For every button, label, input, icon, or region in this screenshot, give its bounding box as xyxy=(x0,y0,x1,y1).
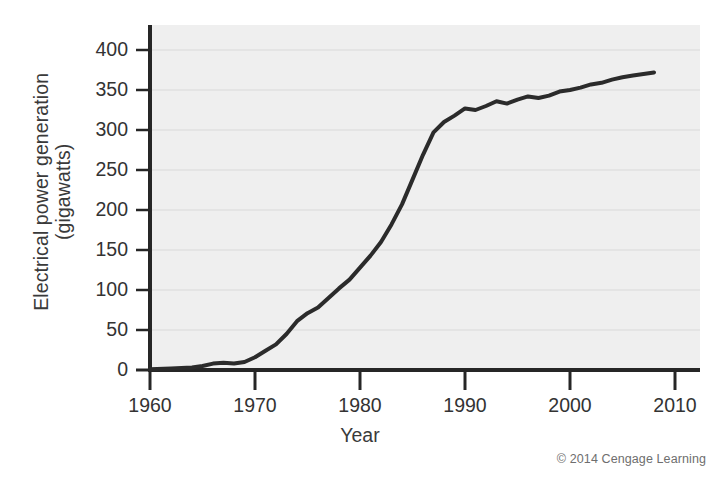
figure-nuclear-power-generation: 050100150200250300350400 196019701980199… xyxy=(0,0,718,483)
x-axis-tick-label: 1970 xyxy=(210,396,300,416)
y-axis-title-line2: (gigawatts) xyxy=(53,7,75,377)
copyright-credit: © 2014 Cengage Learning xyxy=(557,452,706,466)
x-axis-tick-label: 1960 xyxy=(105,396,195,416)
x-axis-tick-label: 2010 xyxy=(630,396,718,416)
x-axis-tick-label: 1980 xyxy=(315,396,405,416)
x-axis-tick-label: 1990 xyxy=(420,396,510,416)
y-axis-title-line1: Electrical power generation xyxy=(30,73,52,311)
y-axis-title: Electrical power generation (gigawatts) xyxy=(31,7,75,377)
x-axis-tick-labels: 196019701980199020002010 xyxy=(0,0,718,483)
x-axis-title: Year xyxy=(150,424,570,447)
x-axis-tick-label: 2000 xyxy=(525,396,615,416)
